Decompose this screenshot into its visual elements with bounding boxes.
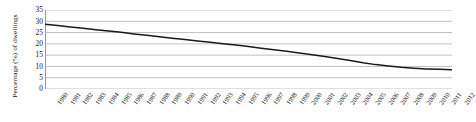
x-tick-label: 1995 — [246, 91, 259, 106]
y-tick-label: 5 — [39, 74, 43, 81]
x-tick-label: 2001 — [323, 91, 336, 106]
x-tick-label: 1999 — [297, 91, 310, 106]
x-tick-label: 2012 — [463, 91, 476, 106]
x-tick-label: 2004 — [361, 91, 374, 106]
x-tick-label: 1991 — [196, 91, 209, 106]
x-axis-tick-labels: 1980198119821983198419851986198719881989… — [45, 89, 462, 122]
y-tick-label: 25 — [36, 29, 43, 36]
y-tick-label: 15 — [36, 51, 43, 58]
x-tick-label: 2011 — [450, 91, 463, 106]
y-tick-label: 0 — [39, 85, 43, 92]
y-tick-label: 20 — [36, 40, 43, 47]
x-tick-label: 1982 — [81, 91, 94, 106]
x-tick-label: 1986 — [132, 91, 145, 106]
gridlines — [45, 10, 452, 89]
x-tick-label: 2007 — [399, 91, 412, 106]
x-tick-label: 2010 — [437, 91, 450, 106]
x-tick-label: 1992 — [208, 91, 221, 106]
y-tick-label: 10 — [36, 63, 43, 70]
series-line-percentage-of-dwellings — [45, 24, 452, 70]
x-tick-label: 1987 — [145, 91, 158, 106]
x-tick-label: 2000 — [310, 91, 323, 106]
x-tick-label: 1996 — [259, 91, 272, 106]
plot-svg — [45, 10, 452, 89]
x-tick-label: 1994 — [234, 91, 247, 106]
y-tick-label: 30 — [36, 18, 43, 25]
x-tick-label: 1993 — [221, 91, 234, 106]
x-tick-label: 1997 — [272, 91, 285, 106]
x-tick-label: 1988 — [157, 91, 170, 106]
x-tick-label: 2003 — [348, 91, 361, 106]
y-axis-tick-labels: 05101520253035 — [26, 0, 43, 100]
x-tick-label: 1984 — [106, 91, 119, 106]
plot-area — [45, 10, 452, 89]
x-tick-label: 1989 — [170, 91, 183, 106]
y-axis-title: Percentage (%) of dwellings — [9, 8, 21, 104]
x-tick-label: 1981 — [68, 91, 81, 106]
x-tick-label: 1983 — [94, 91, 107, 106]
x-tick-label: 1985 — [119, 91, 132, 106]
x-tick-label: 1980 — [56, 91, 69, 106]
y-tick-label: 35 — [36, 6, 43, 13]
x-tick-label: 2002 — [335, 91, 348, 106]
x-tick-label: 2008 — [412, 91, 425, 106]
x-tick-label: 1998 — [285, 91, 298, 106]
x-tick-label: 2005 — [374, 91, 387, 106]
x-tick-label: 1990 — [183, 91, 196, 106]
x-tick-label: 2006 — [386, 91, 399, 106]
x-tick-label: 2009 — [424, 91, 437, 106]
